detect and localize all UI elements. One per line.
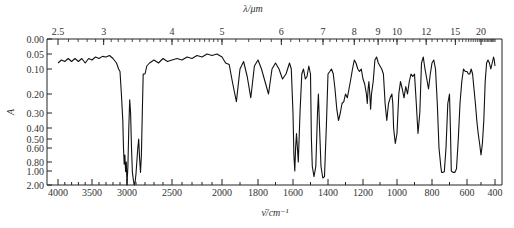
top-tick-label: 8 bbox=[352, 26, 357, 37]
y-tick-label: 2.00 bbox=[27, 180, 45, 191]
x-tick-label: 1200 bbox=[353, 187, 373, 198]
top-tick-label: 12 bbox=[421, 26, 431, 37]
x-tick-label: 1600 bbox=[283, 187, 303, 198]
ticks: 0.000.050.100.200.300.400.500.600.801.00… bbox=[27, 26, 503, 198]
top-tick-label: 7 bbox=[321, 26, 326, 37]
y-tick-label: 0.40 bbox=[27, 123, 45, 134]
top-tick-label: 20 bbox=[476, 26, 486, 37]
x-tick-label: 1400 bbox=[318, 187, 338, 198]
x-tick-label: 4000 bbox=[48, 187, 68, 198]
y-tick-label: 0.05 bbox=[27, 49, 45, 60]
y-tick-label: 0.00 bbox=[27, 34, 45, 45]
top-tick-label: 15 bbox=[450, 26, 460, 37]
x-tick-label: 1800 bbox=[248, 187, 268, 198]
top-tick-label: 9 bbox=[376, 26, 381, 37]
x-tick-label: 2500 bbox=[162, 187, 182, 198]
left-axis-title: A bbox=[5, 108, 16, 116]
x-tick-label: 3000 bbox=[117, 187, 137, 198]
ir-spectrum-chart: 0.000.050.100.200.300.400.500.600.801.00… bbox=[0, 0, 514, 228]
bottom-axis-title: ν̄/cm⁻¹ bbox=[261, 207, 288, 218]
top-tick-label: 10 bbox=[392, 26, 402, 37]
top-tick-label: 4 bbox=[170, 26, 175, 37]
top-tick-label: 2.5 bbox=[52, 26, 65, 37]
x-tick-label: 3500 bbox=[82, 187, 102, 198]
y-tick-label: 1.00 bbox=[27, 166, 45, 177]
y-tick-label: 0.20 bbox=[27, 89, 45, 100]
y-tick-label: 0.60 bbox=[27, 143, 45, 154]
top-tick-label: 5 bbox=[220, 26, 225, 37]
y-tick-label: 0.30 bbox=[27, 108, 45, 119]
y-tick-label: 0.10 bbox=[27, 64, 45, 75]
x-tick-label: 1000 bbox=[387, 187, 407, 198]
spectrum-line bbox=[58, 54, 495, 185]
x-tick-label: 600 bbox=[460, 187, 475, 198]
x-tick-label: 400 bbox=[488, 187, 503, 198]
x-tick-label: 800 bbox=[425, 187, 440, 198]
top-tick-label: 3 bbox=[101, 26, 106, 37]
top-tick-label: 6 bbox=[279, 26, 284, 37]
x-tick-label: 2000 bbox=[212, 187, 232, 198]
top-axis-title: λ/μm bbox=[242, 3, 262, 14]
